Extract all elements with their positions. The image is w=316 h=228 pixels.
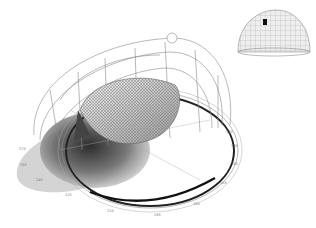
bearing-label: 195 [154, 213, 161, 217]
bearing-label: 135 [231, 144, 238, 148]
bearing-label: 210 [107, 209, 114, 213]
bearing-label: 150 [231, 162, 238, 166]
bearing-label: 225 [65, 193, 72, 197]
solar-dome-diagram: 120 135 150 165 180 195 210 225 240 255 … [0, 0, 316, 228]
bearing-label: 120 [226, 130, 233, 134]
bearing-label: 180 [193, 202, 200, 206]
bearing-label: 270 [19, 147, 26, 151]
bearing-label: 240 [36, 178, 43, 182]
bearing-label: 255 [20, 163, 27, 167]
inset-sky-dome [238, 10, 310, 56]
sun-position-marker [263, 19, 267, 25]
main-view [0, 0, 316, 228]
bearing-label: 165 [220, 181, 227, 185]
